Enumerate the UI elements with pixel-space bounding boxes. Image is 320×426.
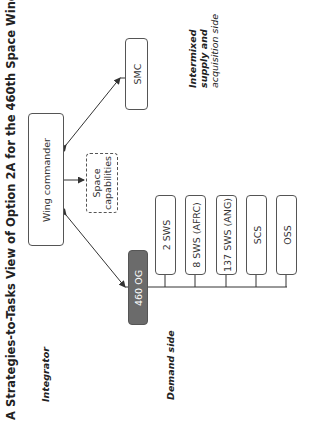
- smc-node: SMC: [125, 38, 148, 110]
- wing-commander-node: Wing commander: [28, 113, 64, 246]
- unit-8sws: 8 SWS (AFRC): [185, 195, 206, 275]
- unit-2sws: 2 SWS: [155, 195, 176, 275]
- unit-137sws: 137 SWS (ANG): [216, 195, 237, 275]
- space-capabilities-label: Spacecapabilities: [91, 156, 113, 210]
- og-460-label: 460 OG: [133, 270, 144, 306]
- unit-scs: SCS: [246, 195, 267, 275]
- smc-label: SMC: [131, 64, 142, 85]
- og-460-node: 460 OG: [128, 250, 148, 325]
- space-capabilities-node: Spacecapabilities: [86, 153, 118, 213]
- wing-commander-label: Wing commander: [41, 137, 52, 221]
- unit-oss: OSS: [276, 195, 297, 275]
